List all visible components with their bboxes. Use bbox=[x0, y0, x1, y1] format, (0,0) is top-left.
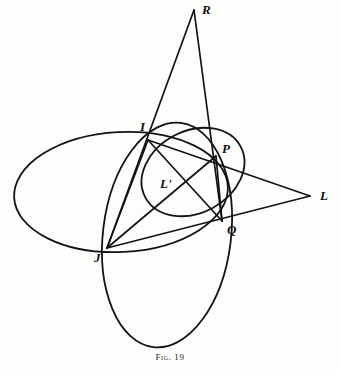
point-label-J: J bbox=[93, 250, 101, 265]
point-label-L: L bbox=[319, 188, 328, 203]
geometry-figure: RIPLL'QJ bbox=[0, 0, 340, 371]
figure-container: RIPLL'QJ Fig. 19 bbox=[0, 0, 340, 371]
point-label-R: R bbox=[201, 2, 211, 17]
point-label-Q: Q bbox=[227, 222, 237, 237]
chord-layer bbox=[107, 10, 310, 248]
point-label-P: P bbox=[222, 141, 231, 156]
figure-caption-text: Fig. 19 bbox=[155, 352, 184, 362]
conic-horizontal-ellipse bbox=[11, 126, 231, 257]
figure-caption: Fig. 19 bbox=[0, 352, 340, 362]
point-label-I: I bbox=[139, 119, 146, 134]
chord-R-to-Q bbox=[194, 10, 222, 221]
point-label-Lp: L' bbox=[159, 176, 172, 191]
